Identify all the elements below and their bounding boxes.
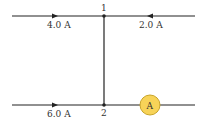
junction-node-2 — [102, 103, 106, 107]
node-label-2: 2 — [101, 108, 107, 118]
current-label-6a: 6.0 A — [47, 109, 71, 119]
arrow-right-icon — [52, 14, 58, 19]
circuit-diagram: 1 2 4.0 A 2.0 A 6.0 A A — [0, 0, 201, 127]
ammeter-label: A — [146, 101, 154, 111]
current-label-2a: 2.0 A — [139, 20, 163, 30]
ammeter: A — [140, 95, 160, 115]
arrow-left-icon — [147, 14, 153, 19]
current-label-4a: 4.0 A — [47, 20, 71, 30]
junction-node-1 — [102, 14, 106, 18]
arrow-right-icon — [52, 103, 58, 108]
node-label-1: 1 — [101, 3, 107, 13]
